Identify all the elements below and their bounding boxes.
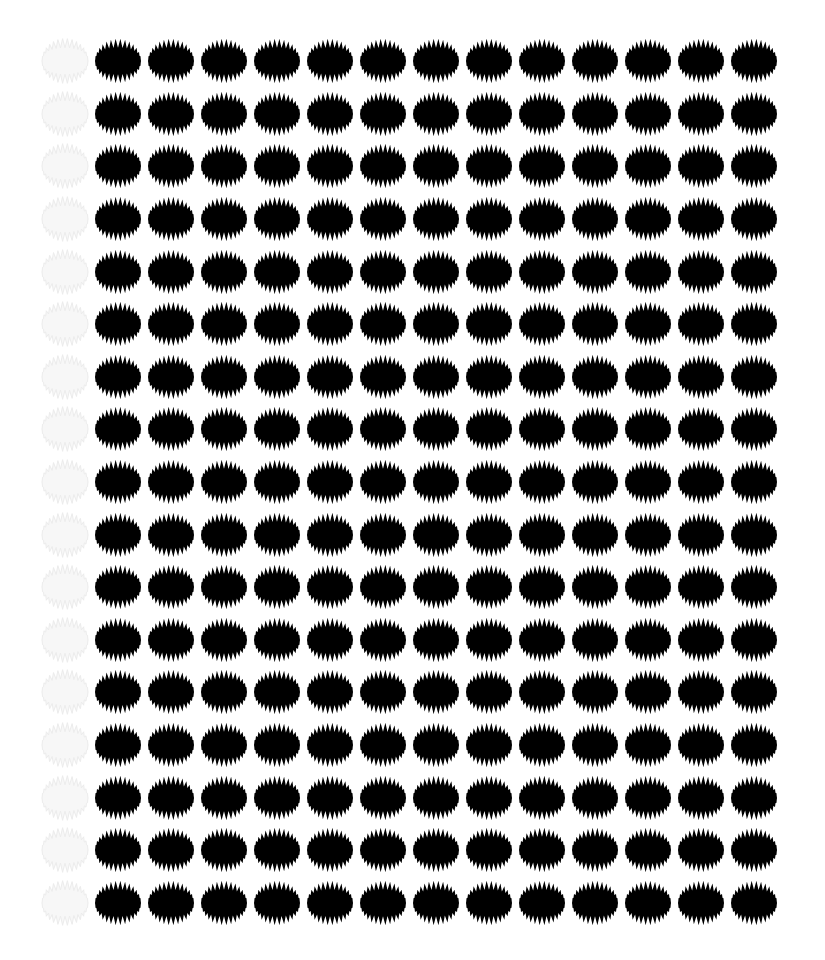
spiky-ellipse-icon [253,458,301,506]
spiky-shape [727,140,780,193]
spiky-ellipse-icon [412,90,460,138]
spiky-ellipse-icon [624,90,672,138]
spiky-shape [727,877,780,930]
spiky-ellipse-icon [147,879,195,927]
spiky-shape [674,771,727,824]
spiky-ellipse-icon [730,90,778,138]
spiky-shape [621,35,674,88]
spiky-shape [515,614,568,667]
spiky-ellipse-icon [147,511,195,559]
spiky-ellipse-icon [359,563,407,611]
ghost-spiky-shape [38,666,91,719]
spiky-shape [727,245,780,298]
spiky-shape [568,666,621,719]
spiky-ellipse-icon [465,195,513,243]
spiky-shape [568,614,621,667]
spiky-ellipse-icon [412,826,460,874]
spiky-shape [674,719,727,772]
spiky-ellipse-icon [465,774,513,822]
spiky-shape [621,614,674,667]
spiky-shape [144,771,197,824]
spiky-ellipse-icon [253,195,301,243]
spiky-ellipse-icon [306,300,354,348]
spiky-ellipse-icon [253,616,301,664]
spiky-shape [303,614,356,667]
spiky-ellipse-icon [571,774,619,822]
spiky-ellipse-icon [730,37,778,85]
spiky-shape [727,508,780,561]
spiky-ellipse-icon [200,353,248,401]
spiky-shape [515,561,568,614]
spiky-ellipse-icon [359,668,407,716]
spiky-shape [197,719,250,772]
spiky-ellipse-icon [147,90,195,138]
spiky-shape [144,824,197,877]
ghost-spiky-shape [38,456,91,509]
spiky-shape [462,403,515,456]
spiky-shape [568,351,621,404]
spiky-ellipse-icon [359,826,407,874]
spiky-ellipse-icon [730,353,778,401]
spiky-shape [303,35,356,88]
spiky-ellipse-icon [147,721,195,769]
spiky-shape [462,614,515,667]
spiky-ellipse-icon [730,616,778,664]
spiky-ellipse-icon [571,563,619,611]
spiky-shape [409,403,462,456]
spiky-ellipse-icon [412,563,460,611]
spiky-ellipse-grid [38,35,780,929]
spiky-ellipse-icon [200,405,248,453]
spiky-ellipse-icon [147,668,195,716]
spiky-shape [303,824,356,877]
spiky-ellipse-icon [412,300,460,348]
spiky-ellipse-icon [41,300,89,348]
spiky-shape [356,351,409,404]
spiky-ellipse-icon [518,90,566,138]
spiky-shape [409,561,462,614]
ghost-spiky-shape [38,245,91,298]
spiky-shape [409,351,462,404]
spiky-ellipse-icon [359,616,407,664]
spiky-ellipse-icon [306,668,354,716]
spiky-ellipse-icon [465,90,513,138]
spiky-ellipse-icon [306,721,354,769]
spiky-shape [409,245,462,298]
spiky-shape [250,88,303,141]
spiky-ellipse-icon [730,879,778,927]
spiky-shape [621,88,674,141]
spiky-ellipse-icon [571,826,619,874]
spiky-ellipse-icon [730,248,778,296]
spiky-ellipse-icon [94,353,142,401]
spiky-ellipse-icon [518,142,566,190]
spiky-shape [197,88,250,141]
spiky-ellipse-icon [677,826,725,874]
spiky-shape [144,561,197,614]
spiky-shape [303,351,356,404]
spiky-ellipse-icon [306,248,354,296]
spiky-shape [250,771,303,824]
spiky-shape [568,140,621,193]
spiky-ellipse-icon [518,300,566,348]
spiky-ellipse-icon [41,721,89,769]
spiky-ellipse-icon [624,721,672,769]
spiky-shape [303,403,356,456]
spiky-shape [144,140,197,193]
spiky-ellipse-icon [730,195,778,243]
spiky-shape [303,877,356,930]
spiky-shape [462,351,515,404]
spiky-shape [356,403,409,456]
spiky-ellipse-icon [41,353,89,401]
ghost-spiky-shape [38,140,91,193]
spiky-shape [356,824,409,877]
spiky-ellipse-icon [253,721,301,769]
spiky-shape [568,88,621,141]
spiky-shape [462,561,515,614]
spiky-ellipse-icon [518,879,566,927]
spiky-ellipse-icon [306,563,354,611]
spiky-shape [250,456,303,509]
spiky-ellipse-icon [147,195,195,243]
spiky-shape [250,877,303,930]
spiky-ellipse-icon [253,563,301,611]
spiky-ellipse-icon [465,616,513,664]
spiky-ellipse-icon [147,774,195,822]
